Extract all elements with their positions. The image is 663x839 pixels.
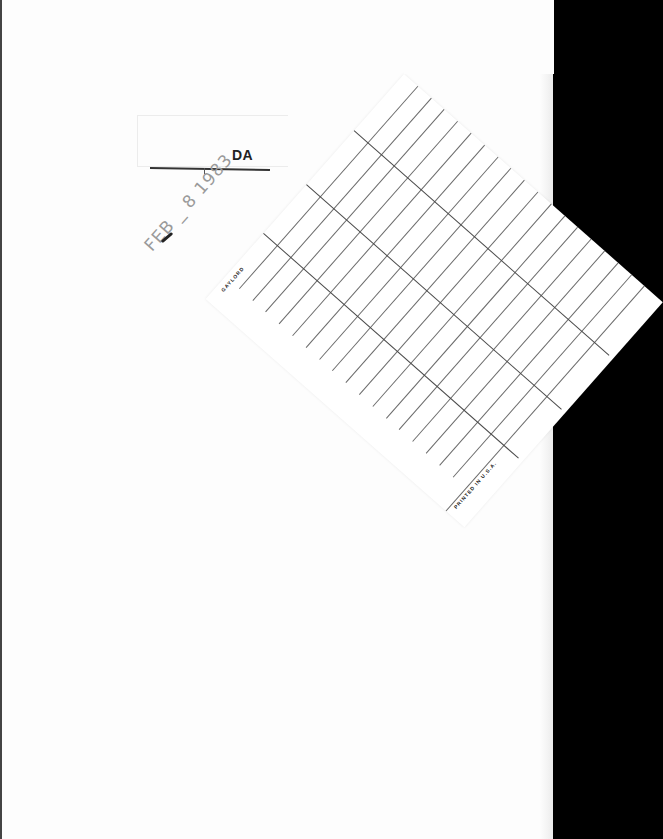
slip-column-divider (354, 130, 610, 356)
page-left-edge (0, 0, 2, 839)
gaylord-imprint: GAYLORD (220, 265, 245, 293)
slip-column-divider (306, 184, 562, 410)
slip-column-divider (263, 233, 519, 459)
slip-row-line (426, 251, 605, 454)
document-page: DA GAYLORD PRINTED IN U.S.A. FEB _ 8 198… (0, 0, 553, 839)
page-overlap-cover (404, 0, 554, 74)
slip-row-line (412, 239, 591, 442)
date-due-header-text: DA (232, 147, 253, 163)
slip-row-line (439, 262, 618, 465)
